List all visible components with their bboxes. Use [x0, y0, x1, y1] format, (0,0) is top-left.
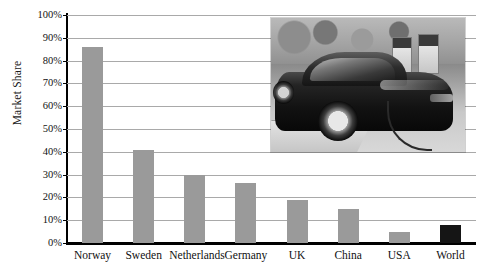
x-axis-label-china: China: [323, 248, 374, 262]
x-axis-label-germany: Germany: [220, 248, 271, 262]
charging-station-icon: [418, 34, 438, 74]
x-axis-label-sweden: Sweden: [118, 248, 169, 262]
car-trunk-highlight: [380, 80, 450, 91]
y-axis-tick-label: 60%: [26, 101, 62, 111]
y-axis-tick-label: 20%: [26, 192, 62, 202]
car-front-wheel: [273, 81, 294, 104]
y-axis-tick-label: 70%: [26, 78, 62, 88]
bar-usa: [389, 232, 410, 243]
y-axis-tick: [63, 243, 67, 244]
x-axis-labels: NorwaySwedenNetherlandsGermanyUKChinaUSA…: [67, 248, 476, 268]
bar-china: [338, 209, 359, 243]
x-axis-label-netherlands: Netherlands: [169, 248, 220, 262]
car-taillight: [430, 94, 453, 102]
y-axis-tick-label: 0%: [26, 238, 62, 248]
y-axis-tick-label: 50%: [26, 124, 62, 134]
car-window: [310, 58, 395, 81]
y-axis-tick-label: 90%: [26, 33, 62, 43]
bar-netherlands: [184, 175, 205, 243]
bar-world: [440, 225, 461, 243]
x-axis-label-usa: USA: [374, 248, 425, 262]
y-axis-tick-label: 80%: [26, 56, 62, 66]
x-axis-label-world: World: [425, 248, 476, 262]
bar-norway: [82, 47, 103, 243]
y-axis-tick-label: 30%: [26, 170, 62, 180]
bar-uk: [287, 200, 308, 243]
y-axis-tick-label: 10%: [26, 215, 62, 225]
bar-sweden: [133, 150, 154, 243]
y-axis-tick-label: 100%: [26, 10, 62, 20]
bar-germany: [235, 183, 256, 243]
y-axis-tick-label: 40%: [26, 147, 62, 157]
bar-chart: Market Share 100%90%80%70%60%50%40%30%20…: [0, 0, 484, 277]
x-axis-label-norway: Norway: [67, 248, 118, 262]
electric-car-charging-photo: [271, 18, 465, 152]
x-axis-label-uk: UK: [272, 248, 323, 262]
